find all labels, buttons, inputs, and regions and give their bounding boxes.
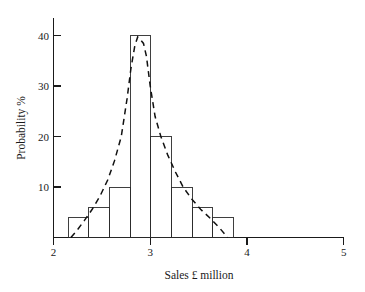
histogram-bar [89,207,110,237]
x-axis-tick-labels: 2 3 4 5 [51,246,347,258]
x-tick-label-4: 4 [244,246,250,258]
histogram-bar [192,207,213,237]
y-axis-title: Probability % [15,96,28,160]
x-tick-label-5: 5 [341,246,347,258]
y-tick-label-10: 10 [38,181,50,193]
chart-canvas: 40 30 20 10 2 3 4 5 Sales £ million Prob… [0,0,365,292]
histogram-bar [151,137,172,238]
y-axis-tick-labels: 40 30 20 10 [38,30,50,194]
x-tick-label-2: 2 [51,246,57,258]
y-tick-label-40: 40 [38,30,50,42]
y-tick-label-20: 20 [38,131,50,143]
histogram-bar [213,217,234,237]
y-axis-ticks [54,36,61,188]
y-tick-label-30: 30 [38,80,50,92]
x-axis-title: Sales £ million [165,269,234,281]
histogram-chart: 40 30 20 10 2 3 4 5 Sales £ million Prob… [0,0,365,292]
x-axis-ticks [54,238,344,245]
histogram-bar [109,187,130,237]
x-tick-label-3: 3 [148,246,154,258]
